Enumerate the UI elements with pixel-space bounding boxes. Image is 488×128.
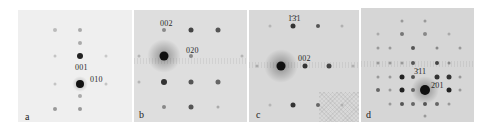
diffraction-spot bbox=[105, 55, 108, 58]
diffraction-spot bbox=[424, 115, 427, 118]
diffraction-spot bbox=[54, 83, 57, 86]
panel-label: b bbox=[139, 110, 144, 120]
diffraction-spot bbox=[189, 28, 194, 33]
diffraction-spot bbox=[161, 79, 167, 85]
diffraction-spot bbox=[138, 55, 141, 58]
transmitted-beam bbox=[76, 80, 84, 88]
diffraction-spot bbox=[377, 47, 380, 50]
diffraction-spot bbox=[448, 33, 451, 36]
diffraction-spot bbox=[459, 47, 462, 50]
diffraction-spot bbox=[78, 107, 82, 111]
diffraction-spot bbox=[162, 105, 166, 109]
diffraction-spot bbox=[376, 88, 380, 92]
diffraction-spot bbox=[189, 105, 194, 110]
diffraction-spot bbox=[316, 103, 320, 107]
diffraction-spot bbox=[352, 65, 355, 68]
diffraction-spot bbox=[389, 47, 392, 50]
diffraction-spot bbox=[447, 88, 452, 93]
diffraction-spot bbox=[53, 28, 57, 32]
diffraction-spot bbox=[411, 61, 415, 65]
diffraction-spot bbox=[291, 103, 296, 108]
diffraction-spot bbox=[316, 24, 320, 28]
diffraction-spot bbox=[400, 32, 404, 36]
diffraction-spot bbox=[377, 76, 380, 79]
diffraction-spot bbox=[411, 102, 415, 106]
panel-a: 001 010 a bbox=[18, 10, 132, 122]
diffraction-spot bbox=[377, 62, 380, 65]
diffraction-spot bbox=[411, 88, 415, 92]
diffraction-spot bbox=[216, 80, 221, 85]
diffraction-spot bbox=[411, 46, 415, 50]
diffraction-spot bbox=[436, 47, 439, 50]
panel-d: 3̄11 2̄01 d bbox=[361, 8, 474, 122]
diffraction-spot bbox=[78, 94, 82, 98]
transmitted-beam bbox=[277, 62, 286, 71]
diffraction-spot bbox=[389, 62, 392, 65]
miller-index-label: 001 bbox=[75, 64, 88, 72]
diffraction-spot bbox=[327, 64, 332, 69]
diffraction-spot bbox=[291, 24, 296, 29]
diffraction-spot bbox=[53, 107, 57, 111]
miller-index-label: 020 bbox=[186, 47, 199, 55]
diffraction-spot bbox=[78, 41, 82, 45]
texture-patch bbox=[319, 92, 359, 122]
miller-index-label: 2̄01 bbox=[431, 82, 444, 90]
diffraction-spot bbox=[435, 75, 440, 80]
panel-c: 1̄3̄1 002 c bbox=[249, 10, 359, 122]
diffraction-spot bbox=[401, 20, 404, 23]
diffraction-spot bbox=[400, 75, 405, 80]
diffraction-spot bbox=[459, 89, 462, 92]
diffraction-spot bbox=[162, 28, 166, 32]
miller-index-label: 010 bbox=[90, 76, 103, 84]
diffraction-spot bbox=[189, 80, 194, 85]
diffraction-spot bbox=[377, 33, 380, 36]
panel-label: d bbox=[366, 110, 371, 120]
miller-index-label: 1̄3̄1 bbox=[288, 15, 301, 23]
diffraction-spot bbox=[400, 88, 405, 93]
diffraction-spot bbox=[269, 25, 272, 28]
diffraction-spot bbox=[241, 55, 244, 58]
diffraction-spot bbox=[217, 106, 220, 109]
diffraction-spot bbox=[54, 55, 57, 58]
diffraction-spot bbox=[401, 62, 404, 65]
diffraction-spot bbox=[424, 20, 427, 23]
diffraction-spot bbox=[435, 102, 439, 106]
diffraction-spot bbox=[448, 103, 451, 106]
diffraction-spot bbox=[389, 89, 392, 92]
transmitted-beam bbox=[420, 85, 430, 95]
diffraction-spot bbox=[447, 75, 452, 80]
diffraction-spot bbox=[77, 53, 83, 59]
diffraction-spot bbox=[400, 102, 404, 106]
diffraction-spot bbox=[423, 102, 427, 106]
diffraction-spot bbox=[303, 64, 308, 69]
diffraction-spot bbox=[269, 104, 272, 107]
diffraction-spot bbox=[423, 32, 427, 36]
diffraction-spot bbox=[341, 25, 344, 28]
miller-index-label: 002 bbox=[160, 20, 173, 28]
miller-index-label: 3̄11 bbox=[414, 68, 426, 76]
diffraction-spot bbox=[138, 81, 141, 84]
panel-label: a bbox=[25, 112, 29, 122]
diffraction-spot bbox=[389, 76, 392, 79]
miller-index-label: 002 bbox=[298, 55, 311, 63]
panel-label: c bbox=[256, 110, 260, 120]
transmitted-beam bbox=[160, 52, 169, 61]
diffraction-spot bbox=[105, 83, 108, 86]
diffraction-figure: 001 010 a 002 020 b bbox=[0, 0, 488, 128]
diffraction-spot bbox=[256, 65, 259, 68]
diffraction-spot bbox=[448, 62, 451, 65]
diffraction-spot bbox=[341, 104, 344, 107]
diffraction-spot bbox=[216, 28, 221, 33]
diffraction-spot bbox=[459, 76, 462, 79]
diffraction-spot bbox=[389, 103, 392, 106]
panel-b: 002 020 b bbox=[134, 10, 247, 122]
diffraction-spot bbox=[78, 28, 82, 32]
diffraction-spot bbox=[435, 61, 439, 65]
